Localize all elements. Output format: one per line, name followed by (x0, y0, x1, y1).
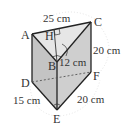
vertex-D-label: D (21, 77, 30, 89)
vertex-E-label: E (53, 113, 60, 125)
measure-CF: 20 cm (93, 45, 120, 56)
measure-EF: 20 cm (77, 94, 104, 105)
vertex-H-label: H (45, 30, 54, 42)
prism-diagram: A C H B D F E 25 cm 12 cm 20 cm 15 cm 20… (0, 0, 130, 136)
vertex-B-label: B (48, 60, 56, 72)
vertex-A-label: A (21, 29, 30, 41)
vertex-F-label: F (93, 70, 100, 82)
measure-BH: 12 cm (59, 57, 86, 68)
measure-DE: 15 cm (13, 95, 40, 106)
measure-AC: 25 cm (43, 13, 70, 24)
vertex-C-label: C (94, 16, 102, 28)
